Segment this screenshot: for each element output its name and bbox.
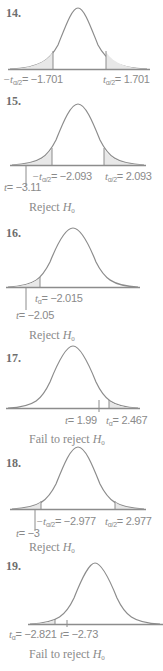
curve-14	[8, 8, 150, 70]
zero-subscript: 0	[101, 439, 105, 447]
problem-number: 14.	[6, 6, 21, 21]
conclusion: Reject H0	[29, 328, 75, 343]
value: = −2.821	[16, 628, 57, 640]
curve-17	[6, 346, 140, 412]
test-statistic: t= −2.73	[60, 628, 98, 640]
value: = 1.701	[115, 73, 150, 85]
zero-subscript: 0	[101, 654, 105, 662]
conclusion-text: Fail to reject	[29, 647, 93, 661]
conclusion: Reject H0	[29, 200, 75, 215]
critical-value: tα= −2.821	[9, 628, 57, 641]
test-statistic: t= −3	[16, 527, 40, 539]
conclusion-text: Reject	[29, 328, 63, 342]
curve-19	[28, 563, 163, 627]
alpha-half-subscript: α/2	[106, 79, 115, 86]
normal-curves-figure	[0, 0, 163, 671]
t-symbol: −t	[3, 73, 13, 85]
right-critical-value: tα/2= 2.093	[105, 170, 152, 183]
value: = 2.977	[117, 515, 152, 527]
zero-subscript: 0	[71, 547, 75, 555]
value: = −3	[19, 527, 40, 539]
problem-number: 18.	[6, 456, 21, 471]
alpha-half-subscript: α/2	[108, 521, 117, 528]
value: = −1.701	[22, 73, 63, 85]
conclusion: Fail to reject H0	[29, 432, 105, 447]
left-critical-value: −tα/2= −2.977	[36, 515, 96, 528]
value: = −2.73	[63, 628, 98, 640]
test-statistic: t= −3.11	[4, 181, 41, 193]
value: = −2.05	[19, 309, 54, 321]
zero-subscript: 0	[71, 207, 75, 215]
zero-subscript: 0	[71, 335, 75, 343]
value: = −2.015	[42, 292, 83, 304]
t-symbol: −t	[36, 515, 46, 527]
conclusion: Reject H0	[29, 540, 75, 555]
value: = −3.11	[7, 181, 41, 193]
test-statistic: t= −2.05	[16, 309, 54, 321]
alpha-half-subscript: α/2	[108, 176, 117, 183]
problem-number: 17.	[6, 351, 21, 366]
alpha-half-subscript: α/2	[13, 79, 22, 86]
conclusion: Fail to reject H0	[29, 647, 105, 662]
conclusion-text: Fail to reject	[29, 432, 93, 446]
value: = 2.467	[113, 414, 148, 426]
value: = 1.99	[68, 414, 97, 426]
value: = −2.977	[55, 515, 96, 527]
conclusion-text: Reject	[29, 540, 63, 554]
alpha-half-subscript: α/2	[42, 176, 51, 183]
problem-number: 16.	[6, 226, 21, 241]
right-critical-value: tα/2= 1.701	[103, 73, 150, 86]
problem-number: 15.	[6, 94, 21, 109]
value: = −2.093	[51, 170, 92, 182]
problem-number: 19.	[6, 559, 21, 574]
test-statistic: t= 1.99	[65, 414, 97, 426]
right-critical-value: tα/2= 2.977	[105, 515, 152, 528]
left-critical-value: −tα/2= −1.701	[3, 73, 63, 86]
alpha-half-subscript: α/2	[46, 521, 55, 528]
conclusion-text: Reject	[29, 200, 63, 214]
value: = 2.093	[117, 170, 152, 182]
critical-value: tα= 2.467	[106, 414, 147, 427]
critical-value: tα= −2.015	[35, 292, 83, 305]
